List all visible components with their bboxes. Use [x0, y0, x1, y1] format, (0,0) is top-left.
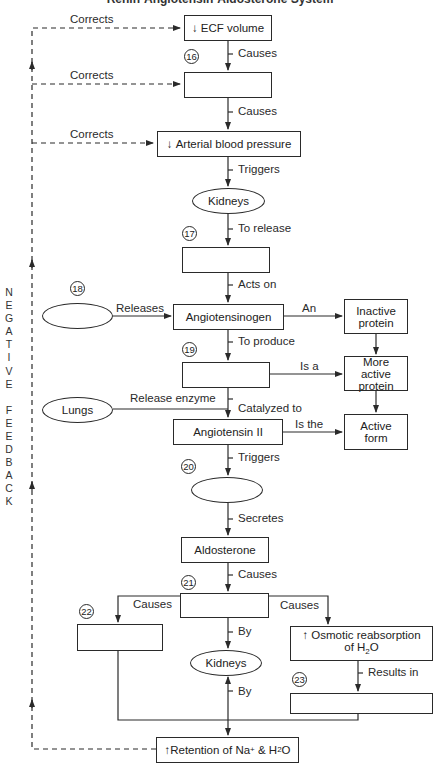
- inactive-protein-box: Inactive protein: [344, 299, 408, 334]
- edge-label-corrects: Corrects: [70, 69, 113, 81]
- question-number-19: 19: [182, 342, 197, 357]
- edge-label-is-the: Is the: [295, 418, 323, 430]
- question-number-20: 20: [181, 459, 196, 474]
- answer-ellipse-20[interactable]: [191, 477, 263, 503]
- negative-feedback-label: NEG ATI VE FEE DBA CK: [4, 286, 14, 509]
- lungs-ellipse: Lungs: [42, 397, 113, 423]
- edge-label-results-in: Results in: [368, 666, 419, 678]
- active-form-box: Active form: [344, 414, 408, 450]
- more-active-protein-box: More active protein: [344, 356, 408, 391]
- angiotensinogen-box: Angiotensinogen: [173, 304, 284, 330]
- edge-label-secretes: Secretes: [238, 512, 283, 524]
- question-number-18: 18: [70, 281, 85, 296]
- answer-ellipse-18[interactable]: [42, 303, 113, 329]
- kidneys-ellipse: Kidneys: [192, 188, 265, 214]
- edge-label-releases: Releases: [116, 302, 164, 314]
- question-number-23: 23: [292, 672, 307, 687]
- edge-label-causes-left: Causes: [133, 598, 172, 610]
- edge-label-is-a: Is a: [300, 360, 319, 372]
- edge-label-causes: Causes: [238, 105, 277, 117]
- edge-label-causes: Causes: [238, 568, 277, 580]
- edge-label-acts-on: Acts on: [238, 278, 276, 290]
- down-arrow-icon: ↓: [192, 22, 198, 34]
- kidneys-ellipse-2: Kidneys: [190, 650, 262, 676]
- edge-label-catalyzed-to: Catalyzed to: [238, 402, 302, 414]
- edge-label-causes: Causes: [238, 47, 277, 59]
- edge-label-by: By: [238, 685, 251, 697]
- up-arrow-icon: ↑: [302, 629, 308, 641]
- answer-box-17[interactable]: [182, 247, 270, 273]
- answer-box-23[interactable]: [290, 693, 433, 714]
- edge-label-corrects: Corrects: [70, 13, 113, 25]
- edge-label-triggers: Triggers: [238, 163, 280, 175]
- edge-label-triggers: Triggers: [238, 451, 280, 463]
- question-number-16: 16: [184, 49, 199, 64]
- answer-box-16[interactable]: [184, 72, 272, 98]
- retention-box: ↑Retention of Na+ & H2O: [156, 737, 299, 763]
- question-number-22: 22: [79, 604, 94, 619]
- question-number-21: 21: [181, 575, 196, 590]
- question-number-17: 17: [182, 226, 197, 241]
- answer-box-22[interactable]: [77, 624, 163, 651]
- edge-label-an: An: [302, 302, 316, 314]
- osmotic-reabsorption-box: ↑ Osmotic reabsorption of H2O: [290, 626, 433, 661]
- aldosterone-box: Aldosterone: [181, 537, 269, 563]
- arterial-pressure-box: ↓ Arterial blood pressure: [157, 131, 301, 157]
- answer-box-21[interactable]: [180, 593, 269, 618]
- edge-label-to-release: To release: [238, 222, 291, 234]
- edge-label-causes-right: Causes: [280, 599, 319, 611]
- edge-label-by: By: [238, 625, 251, 637]
- answer-box-19[interactable]: [182, 362, 270, 388]
- edge-label-corrects: Corrects: [70, 128, 113, 140]
- down-arrow-icon: ↓: [167, 138, 173, 150]
- angiotensin-ii-box: Angiotensin II: [173, 419, 283, 445]
- edge-label-to-produce: To produce: [238, 335, 295, 347]
- edge-label-release-enzyme: Release enzyme: [130, 392, 216, 404]
- ecf-volume-box: ↓ ECF volume: [184, 15, 272, 41]
